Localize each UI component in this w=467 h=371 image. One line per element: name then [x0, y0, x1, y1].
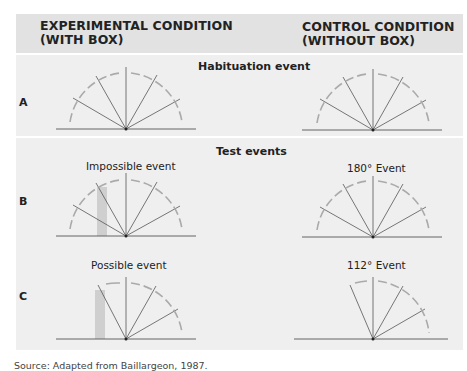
possible-event-diagram	[56, 277, 196, 341]
180-event-diagram	[302, 176, 442, 239]
source-caption: Source: Adapted from Baillargeon, 1987.	[14, 360, 208, 371]
habituation-control-diagram	[302, 69, 442, 132]
drawbridge-diagrams	[0, 0, 467, 371]
impossible-event-diagram	[56, 173, 196, 238]
habituation-experimental-diagram	[56, 67, 196, 131]
112-event-diagram	[294, 277, 448, 341]
